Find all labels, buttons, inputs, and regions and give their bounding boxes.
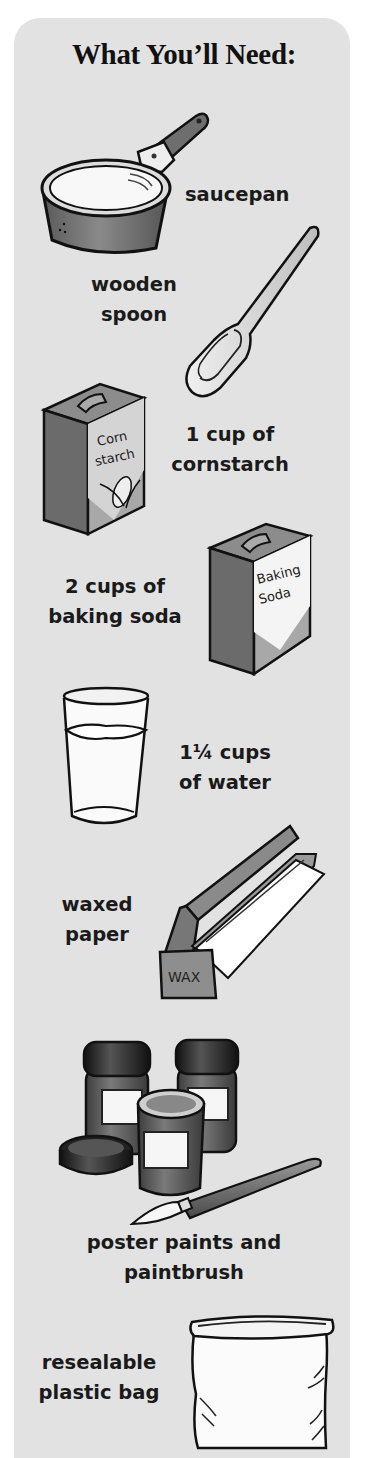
water-glass-icon [60, 684, 155, 834]
item-label-water: 1¼ cups of water [170, 738, 280, 798]
cornstarch-box-icon: Corn starch [40, 380, 152, 540]
item-label-poster-paints: poster paints and paintbrush [0, 1228, 368, 1288]
paint-jars-and-brush-icon [58, 1028, 328, 1214]
paintbrush-tip-icon [128, 1190, 198, 1230]
item-label-saucepan: saucepan [185, 180, 289, 210]
item-label-cornstarch: 1 cup of cornstarch [160, 420, 300, 480]
waxed-paper-box-icon: WAX [156, 824, 336, 999]
baking-soda-box-icon: Baking Soda [206, 520, 318, 680]
svg-text:WAX: WAX [168, 969, 201, 985]
wooden-spoon-icon [180, 222, 320, 402]
item-label-wooden-spoon: wooden spoon [80, 270, 188, 330]
item-label-plastic-bag: resealable plastic bag [34, 1348, 164, 1408]
item-label-waxed-paper: waxed paper [52, 890, 142, 950]
item-label-baking-soda: 2 cups of baking soda [40, 572, 190, 632]
page-title: What You’ll Need: [0, 38, 368, 71]
plastic-bag-icon [188, 1308, 338, 1448]
